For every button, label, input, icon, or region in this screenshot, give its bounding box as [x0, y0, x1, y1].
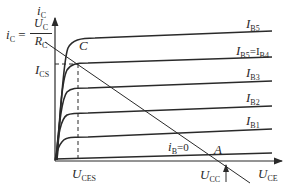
curve-ib0 — [55, 153, 272, 159]
ic-equation-lhs: iC = — [6, 28, 26, 44]
curve-label-ib1: IB1 — [246, 114, 260, 130]
point-c-label: C — [79, 39, 88, 52]
curve-ib3 — [56, 81, 272, 160]
curve-label-ib0: iB=0 — [168, 140, 189, 156]
x-axis-label: UCE — [258, 167, 278, 183]
curve-label-ib5: IB5 — [246, 17, 260, 33]
uces-label: UCES — [72, 167, 96, 183]
ic-equation-fraction: UC RC — [30, 17, 52, 50]
load-line — [45, 42, 250, 183]
point-a-label: A — [214, 143, 222, 156]
curve-label-ib4: IB5=IB4 — [236, 44, 269, 60]
curve-label-ib3: IB3 — [246, 66, 260, 82]
ucc-label: UCC — [200, 168, 220, 184]
ics-label: ICS — [35, 63, 49, 79]
curve-label-ib2: IB2 — [246, 91, 260, 107]
